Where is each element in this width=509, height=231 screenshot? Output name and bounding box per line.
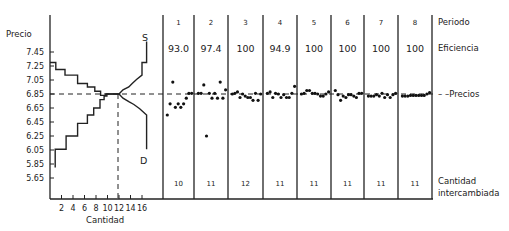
period-8: 810011 [401,15,432,199]
y-tick-label: 6.25 [26,132,44,141]
period-7: 710011 [367,15,398,199]
price-dot [213,92,216,95]
price-dot [166,113,169,116]
period-panels: 193.010297.411310012494.9115100116100117… [163,15,432,199]
period-quantity: 12 [241,180,250,188]
period-number: 7 [379,19,383,27]
price-dot [221,97,224,100]
price-dot [257,99,260,102]
y-tick-label: 7.45 [26,48,44,57]
x-tick-label: 10 [102,204,112,213]
price-dot [423,94,426,97]
x-tick-label: 4 [70,204,75,213]
price-dot [383,96,386,99]
price-dot [177,102,180,105]
row-label-period: Periodo [438,17,470,27]
price-dot [386,93,389,96]
period-efficiency: 100 [372,43,390,54]
x-tick-label: 8 [93,204,98,213]
price-dot [179,106,182,109]
price-dot [336,93,339,96]
supply-label: S [142,32,148,43]
price-dot [339,99,342,102]
y-tick-label: 5.65 [26,174,44,183]
price-dot [187,92,190,95]
period-number: 2 [209,19,213,27]
period-6: 610011 [334,15,364,199]
period-efficiency: 100 [236,43,254,54]
price-dot [290,92,293,95]
period-quantity: 11 [276,180,285,188]
price-dot [417,94,420,97]
supply-demand-curves [50,42,147,168]
price-dot [375,93,378,96]
period-quantity: 11 [411,180,420,188]
y-tick-label: 7.25 [26,62,44,71]
period-quantity: 11 [310,180,319,188]
x-tick-label: 2 [59,204,64,213]
price-dot [327,90,330,93]
price-dot [293,85,296,88]
price-dot [425,92,428,95]
period-efficiency: 100 [305,43,323,54]
price-dot [355,96,358,99]
price-dot [185,97,188,100]
price-dot [316,92,319,95]
price-dot [300,92,303,95]
row-label-efficiency: Eficiencia [438,43,479,53]
period-efficiency: 94.9 [269,43,290,54]
price-dot [389,96,392,99]
price-dot [169,102,172,105]
price-dot [322,95,325,98]
period-1: 193.010 [166,15,194,199]
period-number: 8 [413,19,417,27]
period-number: 3 [243,19,247,27]
row-label-prices: – –Precios [438,89,480,99]
period-efficiency: 93.0 [168,43,189,54]
price-dot [238,96,241,99]
y-tick-label: 7.05 [26,76,44,85]
price-dot [406,95,409,98]
price-dot [224,88,227,91]
price-dot [288,96,291,99]
price-dot [171,81,174,84]
price-dot [190,92,193,95]
price-dot [254,92,257,95]
period-number: 6 [345,19,350,27]
price-dot [174,106,177,109]
x-tick-label: 6 [82,204,87,213]
price-dot [236,90,239,93]
row-label-quantity-1: Cantidad [438,176,476,186]
price-dot [342,95,345,98]
period-number: 4 [278,19,283,27]
price-dot [219,81,222,84]
price-dot [350,93,353,96]
period-efficiency: 100 [406,43,424,54]
price-dot [378,95,381,98]
price-dot [249,96,252,99]
y-tick-label: 6.65 [26,104,44,113]
price-dot [208,92,211,95]
period-5: 510011 [300,15,331,199]
demand-curve [50,63,147,150]
x-axis-label: Cantidad [86,215,124,225]
x-tick-label: 12 [114,204,124,213]
demand-label: D [140,155,147,166]
y-axis-label: Precio [6,29,32,39]
x-tick-label: 16 [137,204,147,213]
price-dot [391,93,394,96]
price-dot [274,92,277,95]
price-dot [266,92,269,95]
period-number: 1 [176,19,180,27]
price-dot [282,93,285,96]
y-tick-label: 6.45 [26,118,44,127]
price-dot [308,89,311,92]
period-efficiency: 100 [338,43,356,54]
price-dot [303,92,306,95]
price-dot [202,83,205,86]
chart-svg: Precio Cantidad 7.457.257.056.856.656.45… [0,0,509,231]
price-dot [205,134,208,137]
price-dot [182,102,185,105]
price-dot [394,92,397,95]
price-dot [269,90,272,93]
